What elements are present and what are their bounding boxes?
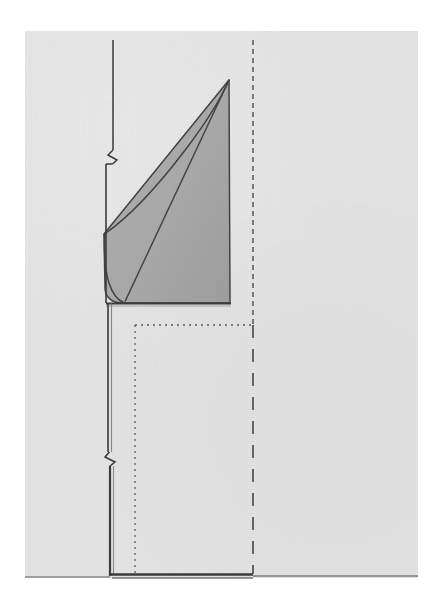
baseline-horizontal xyxy=(25,575,418,579)
drawing-vector-layer xyxy=(0,0,434,608)
fine-dotted-guide xyxy=(135,325,253,574)
axis-break-mark-lower-icon xyxy=(105,452,115,466)
axis-break-mark-upper-icon xyxy=(108,150,117,164)
figure-root xyxy=(0,0,434,608)
shoulder-horizontal-edge xyxy=(106,304,231,307)
lower-vertical-axis xyxy=(105,303,115,576)
shaded-stress-wedge xyxy=(104,80,230,303)
